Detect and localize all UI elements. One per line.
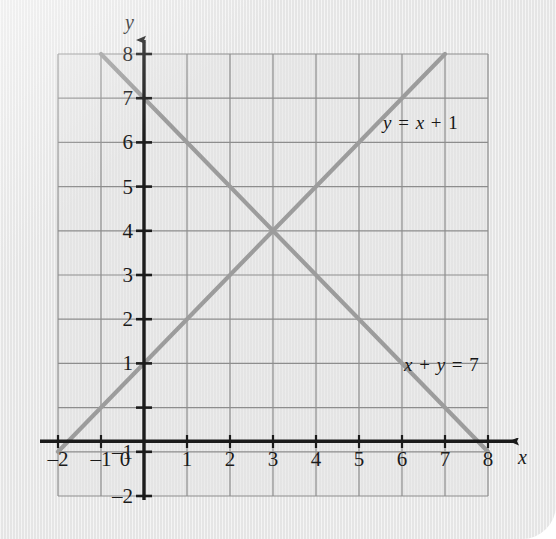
origin-label: 0 [120, 449, 131, 470]
y-tick-label-neg2: –2 [112, 486, 133, 507]
y-tick-label-1: 1 [123, 353, 134, 374]
x-tick-label-4: 4 [311, 449, 322, 470]
y-tick-label-4: 4 [123, 221, 134, 242]
y-tick-label-8: 8 [123, 44, 134, 65]
label2-a: x [404, 354, 413, 375]
x-tick-label-8: 8 [483, 449, 494, 470]
x-tick-label-3: 3 [268, 449, 279, 470]
label1-rhs-num: 1 [448, 112, 458, 133]
label1-plus: + [430, 112, 443, 133]
y-tick-label-2: 2 [123, 309, 134, 330]
line-label-y-equals-x-plus-1: y = x + 1 [383, 113, 458, 132]
label2-equals: = [451, 354, 464, 375]
x-tick-label-neg2: –2 [48, 449, 69, 470]
x-tick-label-6: 6 [397, 449, 408, 470]
x-tick-label-neg1: –1 [91, 449, 112, 470]
label1-rhs-var: x [416, 112, 425, 133]
x-axis-name: x [518, 447, 527, 467]
label1-equals: = [397, 112, 410, 133]
y-axis-name: y [125, 12, 134, 32]
label2-b: y [437, 354, 446, 375]
coordinate-plane: 8 7 6 5 4 3 2 1 –1 –2 0 –2 –1 1 2 3 4 5 … [0, 0, 556, 539]
y-tick-label-7: 7 [123, 88, 134, 109]
line-label-x-plus-y-equals-7: x + y = 7 [404, 355, 479, 374]
x-tick-label-2: 2 [225, 449, 236, 470]
y-tick-label-5: 5 [123, 177, 134, 198]
label1-lhs: y [383, 112, 392, 133]
y-tick-label-3: 3 [123, 265, 134, 286]
x-tick-label-5: 5 [354, 449, 365, 470]
figure-panel: 8 7 6 5 4 3 2 1 –1 –2 0 –2 –1 1 2 3 4 5 … [0, 0, 556, 539]
x-tick-label-1: 1 [182, 449, 193, 470]
label2-plus: + [418, 354, 431, 375]
label2-value: 7 [469, 354, 479, 375]
x-tick-label-7: 7 [440, 449, 451, 470]
y-tick-label-6: 6 [123, 132, 134, 153]
